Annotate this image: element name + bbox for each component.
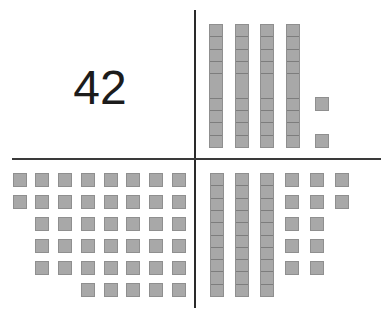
unit-cube (335, 195, 349, 209)
unit-cube (285, 173, 299, 187)
unit-cube (285, 195, 299, 209)
unit-cube (335, 173, 349, 187)
unit-cube (310, 217, 324, 231)
unit-cube (285, 217, 299, 231)
unit-cube (285, 239, 299, 253)
unit-cube (310, 173, 324, 187)
unit-cube (310, 195, 324, 209)
unit-cube (285, 261, 299, 275)
bottom-right-blocks (0, 0, 390, 320)
unit-cube (310, 239, 324, 253)
unit-cube (310, 261, 324, 275)
tens-rod (235, 173, 249, 297)
tens-rod (210, 173, 224, 297)
tens-rod (260, 173, 274, 297)
